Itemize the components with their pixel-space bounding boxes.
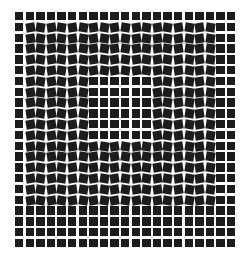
grid-square: [163, 22, 173, 32]
grid-square: [46, 55, 56, 65]
grid-square: [216, 88, 224, 96]
grid-square: [132, 239, 140, 247]
grid-square: [46, 184, 56, 194]
grid-square: [173, 55, 183, 65]
grid-square: [120, 22, 130, 32]
grid-square: [205, 33, 215, 43]
grid-square: [57, 87, 67, 97]
grid-square: [67, 44, 77, 54]
grid-square: [173, 195, 183, 205]
grid-square: [205, 130, 215, 140]
grid-square: [163, 184, 173, 194]
grid-square: [184, 173, 194, 183]
grid-square: [227, 12, 235, 20]
grid-square: [142, 195, 152, 205]
grid-square: [15, 131, 23, 139]
grid-square: [25, 65, 35, 75]
grid-square: [173, 33, 183, 43]
grid-square: [89, 55, 99, 65]
grid-square: [216, 196, 224, 204]
grid-square: [142, 12, 150, 20]
grid-square: [163, 76, 173, 86]
grid-square: [184, 65, 194, 75]
grid-square: [132, 12, 140, 20]
grid-square: [57, 239, 65, 247]
grid-square: [205, 184, 215, 194]
grid-square: [132, 131, 140, 139]
grid-square: [46, 141, 56, 151]
grid-square: [57, 65, 67, 75]
grid-square: [57, 109, 67, 119]
grid-square: [57, 163, 67, 173]
grid-square: [120, 195, 130, 205]
grid-square: [100, 109, 108, 117]
grid-square: [110, 88, 118, 96]
grid-square: [78, 98, 88, 108]
grid-square: [163, 152, 173, 162]
grid-square: [163, 217, 171, 225]
grid-square: [121, 77, 129, 85]
grid-square: [173, 22, 183, 32]
grid-square: [120, 163, 130, 173]
grid-square: [100, 217, 108, 225]
grid-square: [67, 22, 77, 32]
grid-square: [57, 141, 67, 151]
grid-square: [227, 55, 235, 63]
grid-square: [216, 142, 224, 150]
grid-square: [57, 184, 67, 194]
grid-square: [89, 239, 97, 247]
grid-square: [120, 141, 130, 151]
grid-square: [36, 206, 44, 214]
grid-square: [100, 120, 108, 128]
grid-square: [89, 228, 97, 236]
grid-square: [121, 239, 129, 247]
grid-square: [15, 77, 23, 85]
grid-square: [184, 98, 194, 108]
grid-square: [195, 206, 203, 214]
grid-square: [142, 239, 150, 247]
grid-square: [153, 12, 161, 20]
grid-square: [15, 66, 23, 74]
grid-square: [227, 239, 235, 247]
grid-square: [227, 152, 235, 160]
grid-square: [142, 184, 152, 194]
grid-square: [100, 12, 108, 20]
grid-square: [110, 141, 120, 151]
grid-square: [78, 87, 88, 97]
grid-square: [120, 173, 130, 183]
grid-square: [227, 196, 235, 204]
grid-square: [36, 109, 46, 119]
grid-square: [25, 141, 35, 151]
grid-square: [121, 12, 129, 20]
grid-square: [173, 44, 183, 54]
grid-square: [15, 228, 23, 236]
grid-square: [184, 109, 194, 119]
grid-square: [195, 173, 205, 183]
grid-square: [46, 130, 56, 140]
grid-square: [216, 55, 224, 63]
grid-square: [36, 119, 46, 129]
grid-square: [216, 34, 224, 42]
grid-square: [36, 152, 46, 162]
grid-square: [99, 44, 109, 54]
grid-square: [67, 65, 77, 75]
grid-square: [152, 163, 162, 173]
grid-square: [47, 239, 55, 247]
grid-square: [89, 141, 99, 151]
grid-square: [78, 44, 88, 54]
grid-square: [89, 33, 99, 43]
grid-square: [57, 206, 65, 214]
grid-square: [131, 195, 141, 205]
grid-square: [89, 131, 97, 139]
grid-square: [110, 33, 120, 43]
grid-square: [152, 22, 162, 32]
grid-square: [227, 206, 235, 214]
grid-square: [142, 33, 152, 43]
grid-square: [131, 55, 141, 65]
grid-square: [67, 141, 77, 151]
grid-square: [120, 65, 130, 75]
grid-square: [227, 142, 235, 150]
grid-square: [205, 87, 215, 97]
grid-square: [46, 173, 56, 183]
grid-square: [78, 119, 88, 129]
